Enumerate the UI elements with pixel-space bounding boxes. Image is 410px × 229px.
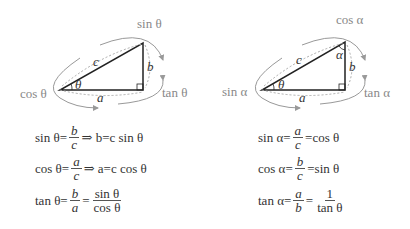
- denominator: b: [293, 201, 304, 214]
- fraction: 1tan θ: [315, 187, 344, 214]
- fraction: ac: [293, 124, 304, 151]
- fraction: ba: [70, 187, 81, 214]
- denominator: c: [295, 169, 305, 182]
- sin-alpha-label: sin α: [222, 84, 247, 99]
- side-c-label: c: [296, 52, 302, 67]
- cos-theta-label: cos θ: [20, 86, 47, 101]
- eq-lhs: tan α=: [258, 193, 291, 209]
- numerator: a: [293, 187, 304, 201]
- eq-lhs: cos α=: [258, 161, 293, 177]
- numerator: a: [71, 155, 82, 169]
- eq-cos-theta: cos θ= ac ⇒ a=c cos θ: [35, 155, 147, 182]
- eq-mid: =: [82, 193, 89, 209]
- eq-rest: =cos θ: [305, 130, 339, 146]
- sin-theta-label: sin θ: [137, 16, 162, 31]
- eq-lhs: cos θ=: [35, 161, 69, 177]
- fraction: ac: [71, 155, 82, 182]
- numerator: a: [293, 124, 304, 138]
- theta-label: θ: [75, 77, 82, 92]
- eq-lhs: sin α=: [258, 130, 291, 146]
- side-b-label: b: [349, 59, 356, 74]
- fraction: ab: [293, 187, 304, 214]
- denominator: c: [69, 138, 79, 151]
- side-c-label: c: [93, 54, 99, 69]
- denominator: tan θ: [315, 201, 344, 214]
- denominator: a: [70, 201, 81, 214]
- numerator: sin θ: [93, 187, 122, 201]
- right-triangle: c b a θ α cos α sin α tan α: [222, 12, 390, 108]
- numerator: 1: [325, 187, 336, 201]
- denominator: c: [293, 138, 303, 151]
- numerator: b: [69, 124, 80, 138]
- eq-cos-alpha: cos α= bc =sin θ: [258, 155, 339, 182]
- tan-alpha-label: tan α: [364, 85, 390, 100]
- tan-theta-label: tan θ: [162, 85, 187, 100]
- side-a-label: a: [97, 90, 104, 105]
- denominator: cos θ: [92, 201, 123, 214]
- eq-lhs: sin θ=: [35, 130, 67, 146]
- eq-tan-theta: tan θ= ba = sin θcos θ: [35, 187, 124, 214]
- cos-alpha-label: cos α: [336, 12, 364, 27]
- eq-mid: =: [306, 193, 313, 209]
- alpha-label: α: [336, 47, 344, 62]
- side-a-label: a: [299, 90, 306, 105]
- left-triangle: c b a θ sin θ cos θ tan θ: [20, 16, 187, 108]
- numerator: b: [70, 187, 81, 201]
- eq-sin-theta: sin θ= bc ⇒ b=c sin θ: [35, 124, 143, 151]
- eq-sin-alpha: sin α= ac =cos θ: [258, 124, 339, 151]
- numerator: b: [295, 155, 306, 169]
- fraction: bc: [295, 155, 306, 182]
- eq-lhs: tan θ=: [35, 193, 68, 209]
- side-b-label: b: [147, 59, 154, 74]
- fraction: sin θcos θ: [92, 187, 123, 214]
- eq-tan-alpha: tan α= ab = 1tan θ: [258, 187, 346, 214]
- eq-rest: ⇒ b=c sin θ: [81, 130, 143, 146]
- fraction: bc: [69, 124, 80, 151]
- eq-rest: =sin θ: [307, 161, 339, 177]
- denominator: c: [72, 169, 82, 182]
- eq-rest: ⇒ a=c cos θ: [84, 161, 147, 177]
- theta-label: θ: [278, 77, 285, 92]
